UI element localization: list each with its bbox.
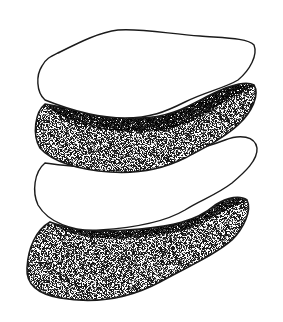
stacked-stones-drawing	[0, 0, 283, 322]
illustration	[0, 0, 283, 322]
